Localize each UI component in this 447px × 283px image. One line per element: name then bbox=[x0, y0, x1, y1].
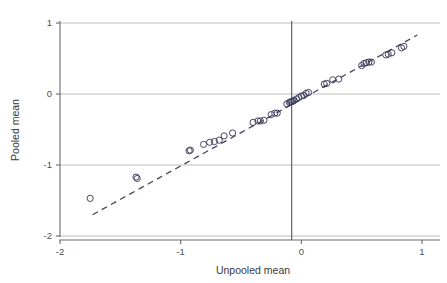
scatter-plot-figure: 10-1-2 -2-101 Unpooled mean Pooled mean bbox=[0, 0, 447, 283]
x-tick-label: 1 bbox=[419, 246, 424, 257]
y-tick-label: 1 bbox=[47, 17, 52, 28]
x-tick-label: 0 bbox=[299, 246, 304, 257]
y-tick-label: -2 bbox=[44, 230, 52, 241]
y-tick-label: 0 bbox=[47, 88, 52, 99]
plot-canvas: 10-1-2 -2-101 Unpooled mean Pooled mean bbox=[0, 0, 447, 283]
x-tick-label: -2 bbox=[56, 246, 64, 257]
y-tick-label: -1 bbox=[44, 159, 52, 170]
x-axis-title: Unpooled mean bbox=[216, 264, 290, 276]
x-tick-label: -1 bbox=[176, 246, 184, 257]
y-axis-title: Pooled mean bbox=[9, 99, 21, 161]
